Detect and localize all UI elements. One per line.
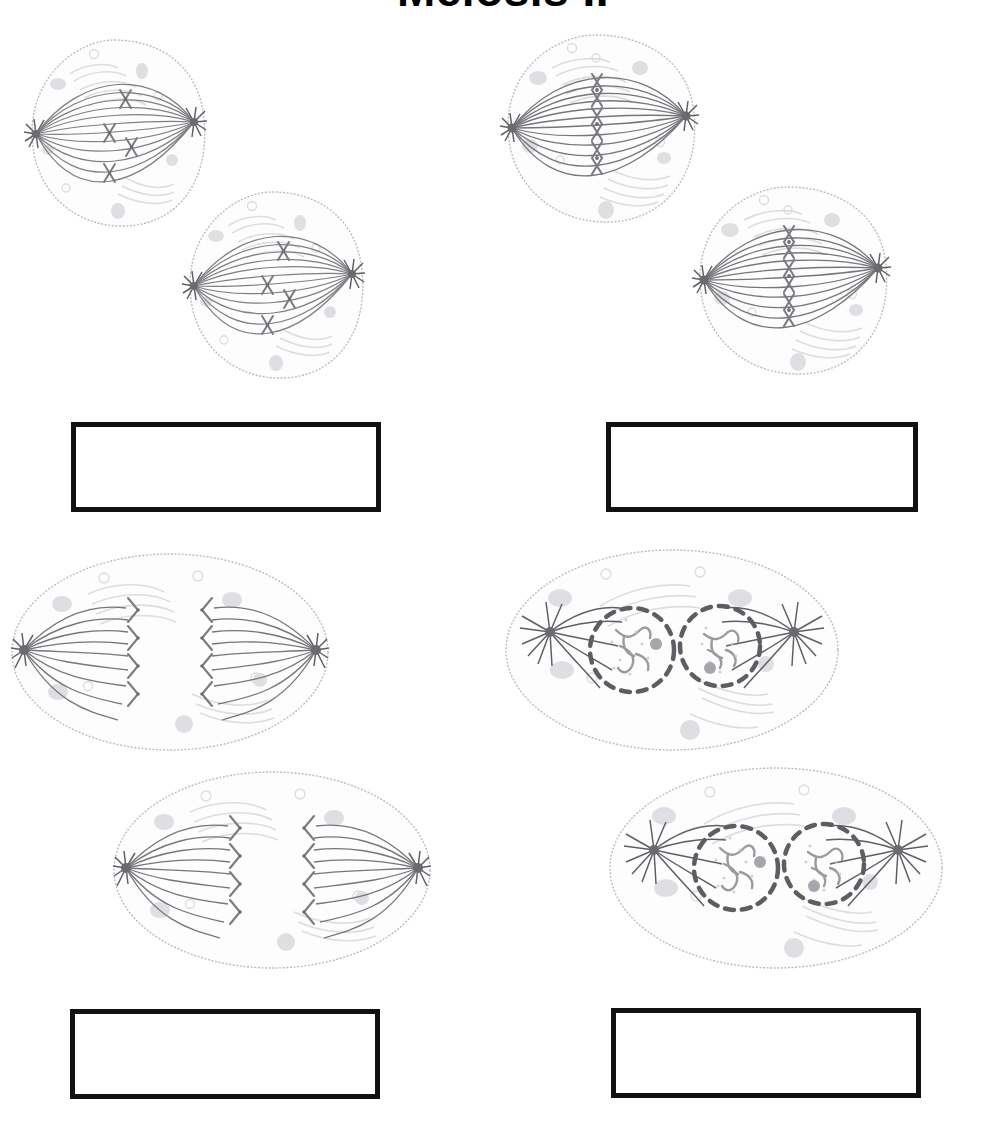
answer-box-prometaphase-ii[interactable] <box>71 422 381 512</box>
metaphase-cell-1 <box>500 35 699 222</box>
telophase-cell-1 <box>506 550 838 750</box>
telophase-cell-2 <box>610 768 942 968</box>
prometaphase-ii-figure <box>0 20 430 410</box>
answer-box-prometaphase-ii-value[interactable] <box>76 427 376 507</box>
answer-box-anaphase-ii[interactable] <box>70 1009 380 1099</box>
prometaphase-cell-1 <box>24 40 207 226</box>
telophase-ii-figure <box>490 540 960 990</box>
prometaphase-cell-2 <box>182 192 365 378</box>
anaphase-cell-1 <box>11 554 329 750</box>
answer-box-telophase-ii-value[interactable] <box>616 1013 916 1093</box>
metaphase-cell-2 <box>692 187 891 374</box>
anaphase-ii-figure <box>0 540 430 990</box>
metaphase-ii-figure <box>480 20 950 410</box>
panel-anaphase-ii <box>0 540 430 990</box>
panel-telophase-ii <box>490 540 960 990</box>
anaphase-cell-2 <box>113 772 431 968</box>
answer-box-anaphase-ii-value[interactable] <box>75 1014 375 1094</box>
answer-box-metaphase-ii-value[interactable] <box>611 427 913 507</box>
worksheet-page: Meiosis II <box>0 0 1006 1134</box>
panel-metaphase-ii <box>480 20 950 410</box>
answer-box-metaphase-ii[interactable] <box>606 422 918 512</box>
page-title: Meiosis II <box>0 0 1006 14</box>
panel-prometaphase-ii <box>0 20 430 410</box>
answer-box-telophase-ii[interactable] <box>611 1008 921 1098</box>
